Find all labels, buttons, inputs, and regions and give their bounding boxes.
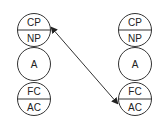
label-right-ac: AC — [128, 102, 142, 113]
node-left-a: A — [18, 48, 51, 81]
diagram-canvas: CP NP A FC AC CP NP A FC AC — [0, 0, 163, 125]
double-arrow-edge — [51, 27, 118, 104]
label-left-np: NP — [27, 33, 41, 44]
node-right-cp-np: CP NP — [119, 14, 152, 47]
label-right-a: A — [132, 59, 139, 70]
label-left-cp: CP — [27, 17, 41, 28]
left-column: CP NP A FC AC — [18, 14, 51, 116]
label-left-ac: AC — [27, 102, 41, 113]
label-left-a: A — [31, 59, 38, 70]
label-right-np: NP — [128, 33, 142, 44]
label-left-fc: FC — [27, 86, 40, 97]
node-left-cp-np: CP NP — [18, 14, 51, 47]
node-left-fc-ac: FC AC — [18, 83, 51, 116]
right-column: CP NP A FC AC — [119, 14, 152, 116]
label-right-cp: CP — [128, 17, 142, 28]
node-right-a: A — [119, 48, 152, 81]
node-right-fc-ac: FC AC — [119, 83, 152, 116]
label-right-fc: FC — [128, 86, 141, 97]
